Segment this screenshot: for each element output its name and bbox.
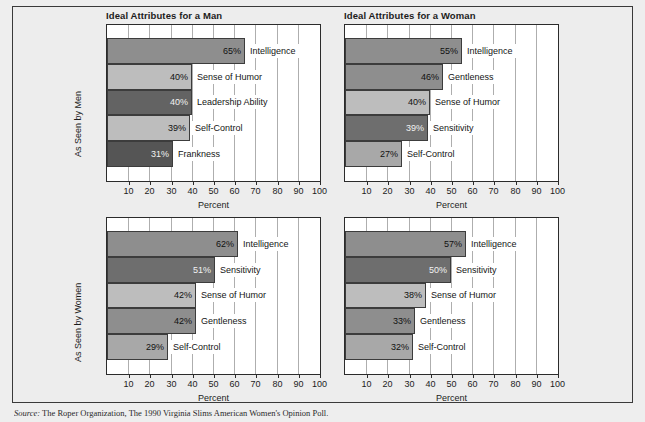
bar-category-label: Gentleness	[416, 314, 469, 328]
bar-value-label: 32%	[385, 342, 409, 352]
x-tick-label-30: 30	[404, 379, 414, 389]
source-note: Source: The Roper Organization, The 1990…	[14, 408, 634, 418]
bar-value-label: 57%	[438, 239, 462, 249]
chart-panel-women-ideal-woman: 57%Intelligence50%Sensitivity38%Sense of…	[13, 7, 634, 404]
x-tick-label-20: 20	[382, 379, 392, 389]
bar-value-label: 38%	[398, 290, 422, 300]
x-tick-label-50: 50	[446, 379, 456, 389]
bar-row: 32%Self-Control	[345, 334, 558, 360]
bar-category-label: Sense of Humor	[427, 288, 499, 302]
bar-category-label: Intelligence	[467, 237, 520, 251]
source-text: The Roper Organization, The 1990 Virgini…	[42, 408, 328, 418]
bar-row: 57%Intelligence	[345, 231, 558, 257]
x-tick-30	[410, 374, 411, 378]
x-axis-title: Percent	[436, 393, 467, 403]
figure-canvas: Ideal Attributes for a ManAs Seen by Men…	[0, 0, 645, 422]
x-tick-100	[558, 374, 559, 378]
bar-value-label: 33%	[387, 316, 411, 326]
source-label: Source:	[14, 408, 40, 418]
bar-row: 33%Gentleness	[345, 308, 558, 334]
figure-frame: Ideal Attributes for a ManAs Seen by Men…	[12, 6, 633, 403]
x-tick-label-90: 90	[531, 379, 541, 389]
x-tick-label-80: 80	[510, 379, 520, 389]
x-tick-label-100: 100	[550, 379, 565, 389]
x-tick-40	[431, 374, 432, 378]
bar-row: 38%Sense of Humor	[345, 283, 558, 309]
x-tick-10	[367, 374, 368, 378]
plot-area-women-ideal-woman: 57%Intelligence50%Sensitivity38%Sense of…	[344, 217, 559, 375]
x-tick-label-40: 40	[425, 379, 435, 389]
x-tick-label-10: 10	[361, 379, 371, 389]
x-tick-70	[494, 374, 495, 378]
x-tick-90	[537, 374, 538, 378]
x-tick-20	[388, 374, 389, 378]
x-tick-60	[473, 374, 474, 378]
bar-row: 50%Sensitivity	[345, 257, 558, 283]
bar-value-label: 50%	[423, 265, 447, 275]
x-tick-label-70: 70	[488, 379, 498, 389]
x-tick-label-60: 60	[467, 379, 477, 389]
bar-category-label: Sensitivity	[452, 263, 500, 277]
bar-category-label: Self-Control	[414, 340, 469, 354]
x-tick-80	[516, 374, 517, 378]
x-tick-50	[452, 374, 453, 378]
